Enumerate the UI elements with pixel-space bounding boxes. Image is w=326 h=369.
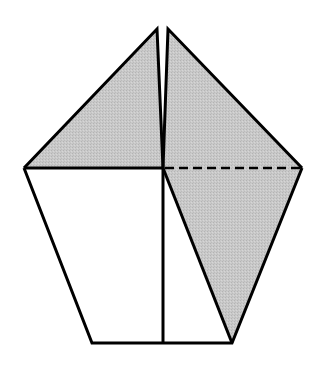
diagram-drawing (0, 0, 326, 369)
lower-left-panel (24, 168, 163, 343)
origami-diagram (0, 0, 326, 369)
